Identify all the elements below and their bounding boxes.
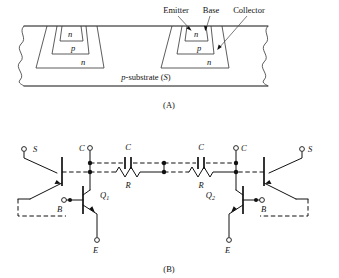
- label-cap-left: C: [125, 142, 131, 152]
- substrate-close: ): [168, 72, 171, 82]
- substrate-rest: -substrate (: [126, 72, 164, 82]
- pnp-right-emitter-arrow: [265, 180, 272, 184]
- terminal-c-right[interactable]: [234, 146, 239, 151]
- panel-b-circuit: S C B: [18, 142, 313, 274]
- right-emitter-n-label: n: [194, 29, 198, 39]
- panel-b-caption: (B): [163, 264, 175, 274]
- parasitic-pnp-right: S: [236, 144, 313, 216]
- terminal-e-left[interactable]: [95, 238, 100, 243]
- left-collector-n-label: n: [81, 57, 85, 67]
- q2-emitter-arrow: [231, 206, 237, 213]
- resistor-left: [116, 167, 164, 177]
- label-b-left: B: [57, 204, 62, 214]
- pnp-right-emitter-lead: [264, 183, 296, 199]
- node-center-bottom: [162, 170, 166, 174]
- label-cap-right: C: [198, 142, 204, 152]
- left-emitter-n-label: n: [68, 29, 72, 39]
- break-edge-right: [262, 26, 268, 86]
- right-collector-n-label: n: [207, 57, 211, 67]
- right-base-p-label: p: [196, 43, 201, 53]
- transistor-q1: C B E Q1: [57, 143, 109, 255]
- collector-callout-label: Collector: [233, 5, 265, 15]
- label-res-left: R: [124, 180, 131, 190]
- label-e-right: E: [224, 245, 231, 255]
- pnp-left-emitter-arrow: [55, 180, 62, 184]
- terminal-e-right[interactable]: [227, 238, 232, 243]
- label-b-right: B: [261, 204, 266, 214]
- node-c-right-rail: [234, 170, 238, 174]
- terminal-s-left[interactable]: [22, 147, 27, 152]
- terminal-b-right[interactable]: [260, 198, 265, 203]
- q1-emitter-lead: [83, 205, 97, 237]
- bjt-cross-section-and-equivalent-circuit: n p n n p n Emitter Base Collector: [0, 0, 339, 278]
- callout-collector: Collector: [217, 5, 265, 50]
- coupling-network: C C R R: [90, 142, 236, 190]
- transistor-q2: C B E Q2: [206, 143, 266, 255]
- svg-text:p-substrate (S): p-substrate (S): [120, 72, 171, 82]
- base-callout-label: Base: [203, 5, 220, 15]
- label-s-right: S: [308, 144, 313, 154]
- q2-emitter-lead: [229, 205, 243, 237]
- label-q2: Q2: [206, 190, 215, 201]
- pnp-right-emitter-return: [260, 199, 308, 216]
- q1-collector-lead: [83, 190, 90, 195]
- label-s-left: S: [33, 144, 38, 154]
- node-c-right-top: [234, 161, 238, 165]
- wire-s-right-to-collector: [269, 152, 302, 173]
- figure-container: n p n n p n Emitter Base Collector: [0, 0, 339, 278]
- panel-a-caption: (A): [163, 100, 175, 110]
- panel-a-cross-section: n p n n p n Emitter Base Collector: [18, 5, 268, 110]
- label-c-left: C: [79, 143, 85, 153]
- label-e-left: E: [92, 245, 99, 255]
- node-b-left: [68, 198, 72, 202]
- q2-collector-lead: [236, 190, 243, 195]
- pnp-left-emitter-lead: [30, 183, 62, 199]
- node-center-top: [162, 161, 166, 165]
- callout-emitter: Emitter: [163, 5, 191, 31]
- terminal-c-left[interactable]: [88, 146, 93, 151]
- substrate-label: p-substrate (S): [120, 72, 171, 82]
- resistor-right: [189, 167, 236, 177]
- terminal-b-left[interactable]: [62, 198, 67, 203]
- break-edge-left: [18, 26, 24, 86]
- device-left: n p n: [36, 26, 104, 68]
- emitter-callout-label: Emitter: [163, 5, 189, 15]
- label-c-right: C: [241, 143, 247, 153]
- node-b-right: [254, 198, 258, 202]
- label-q1: Q1: [100, 190, 109, 201]
- parasitic-pnp-left: S: [18, 144, 90, 216]
- label-res-right: R: [197, 180, 204, 190]
- terminal-s-right[interactable]: [300, 147, 305, 152]
- left-base-p-label: p: [70, 43, 75, 53]
- q1-emitter-arrow: [89, 206, 95, 213]
- wire-s-left-to-collector: [24, 152, 57, 173]
